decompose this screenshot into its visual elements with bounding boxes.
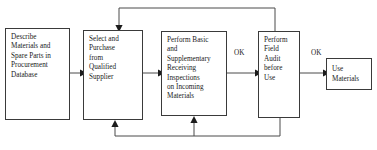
- connector-audit-bottom-feedback-to-select: [111, 120, 118, 136]
- connector-audit-top-feedback-to-select: [115, 8, 275, 32]
- connector-audit-bottom-feedback-trunk: [115, 118, 280, 136]
- flowchart-canvas: Describe Materials and Spare Parts in Pr…: [0, 0, 377, 150]
- edge-label-ok-audit-to-use: OK: [311, 49, 321, 58]
- node-select-purchase[interactable]: Select and Purchase from Qualified Suppl…: [83, 30, 143, 120]
- edge-label-ok-inspection-to-audit: OK: [234, 49, 244, 58]
- node-use-materials[interactable]: Use Materials: [326, 58, 372, 90]
- node-receiving-inspections[interactable]: Perform Basic and Supplementary Receivin…: [161, 31, 227, 116]
- connector-inspections-to-audit: [227, 69, 262, 76]
- node-describe-materials[interactable]: Describe Materials and Spare Parts in Pr…: [5, 28, 70, 120]
- connector-audit-bottom-feedback-to-inspections: [190, 116, 197, 136]
- node-field-audit[interactable]: Perform Field Audit before Use: [258, 31, 300, 118]
